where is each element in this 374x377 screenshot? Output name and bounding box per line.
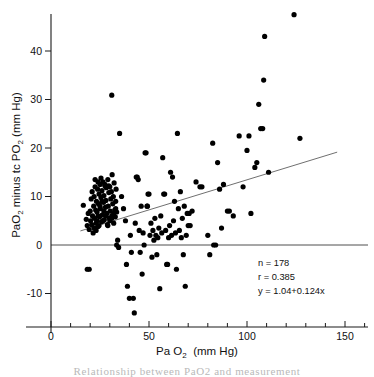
sample-size: n = 178 — [258, 258, 289, 268]
data-point — [97, 204, 102, 209]
data-point — [105, 223, 110, 228]
data-point — [142, 242, 147, 247]
data-point — [184, 233, 189, 238]
data-point — [106, 204, 111, 209]
data-point — [174, 267, 179, 272]
data-point — [128, 233, 133, 238]
data-point — [156, 225, 161, 230]
data-point — [138, 250, 143, 255]
data-point — [176, 206, 181, 211]
y-tick-label: 0 — [36, 239, 42, 251]
data-point — [95, 213, 100, 218]
statistics-annotation: n = 178r = 0.385y = 1.04+0.124x — [258, 258, 325, 296]
y-tick-labels: -10010203040 — [27, 45, 42, 299]
data-point — [150, 228, 155, 233]
data-point — [121, 206, 126, 211]
y-axis — [45, 14, 51, 333]
data-point — [109, 216, 114, 221]
data-point — [256, 102, 261, 107]
data-point — [145, 204, 150, 209]
y-tick-label: -10 — [27, 287, 42, 299]
data-point — [147, 233, 152, 238]
data-point — [181, 252, 186, 257]
data-point — [101, 208, 106, 213]
data-point — [99, 188, 104, 193]
data-point — [205, 233, 210, 238]
data-point — [100, 218, 105, 223]
data-point — [219, 225, 224, 230]
data-point — [171, 218, 176, 223]
data-point — [188, 223, 193, 228]
data-point — [116, 245, 121, 250]
data-point — [98, 175, 103, 180]
data-point — [179, 235, 184, 240]
data-point — [291, 12, 296, 17]
x-tick-label: 100 — [238, 330, 256, 342]
data-point — [162, 191, 167, 196]
data-point — [246, 133, 251, 138]
data-point — [152, 216, 157, 221]
data-point — [110, 172, 115, 177]
data-point — [113, 187, 118, 192]
data-point — [131, 296, 136, 301]
data-point — [92, 194, 97, 199]
data-point — [133, 221, 138, 226]
data-point — [160, 155, 165, 160]
data-point — [182, 204, 187, 209]
data-point — [260, 126, 265, 131]
data-point — [123, 218, 128, 223]
data-point — [109, 189, 114, 194]
data-point — [244, 148, 249, 153]
x-axis-title: Pa O2 (mm Hg) — [156, 345, 238, 360]
data-point — [237, 133, 242, 138]
data-point — [117, 131, 122, 136]
data-point — [240, 184, 245, 189]
data-point — [157, 286, 162, 291]
y-tick-label: 30 — [30, 93, 42, 105]
data-point — [141, 230, 146, 235]
svg-text:Pa O2 (mm Hg): Pa O2 (mm Hg) — [156, 345, 238, 360]
data-point — [180, 216, 185, 221]
data-point — [231, 213, 236, 218]
x-tick-label: 0 — [48, 330, 54, 342]
data-point — [199, 184, 204, 189]
data-point — [90, 189, 95, 194]
data-point — [215, 160, 220, 165]
data-point — [113, 199, 118, 204]
regression-line — [80, 152, 337, 231]
svg-text:PaO2 minus tc PO2 (mm Hg): PaO2 minus tc PO2 (mm Hg) — [10, 92, 25, 238]
data-point — [109, 93, 114, 98]
data-point — [112, 180, 117, 185]
data-point — [149, 255, 154, 260]
data-point — [190, 208, 195, 213]
data-point — [96, 223, 101, 228]
data-point — [163, 228, 168, 233]
data-point — [99, 199, 104, 204]
data-point — [221, 182, 226, 187]
data-point — [154, 252, 159, 257]
data-point — [103, 213, 108, 218]
data-point — [217, 187, 222, 192]
data-point — [266, 170, 271, 175]
data-point — [172, 199, 177, 204]
x-tick-label: 150 — [336, 330, 354, 342]
data-point — [168, 170, 173, 175]
y-tick-label: 20 — [30, 142, 42, 154]
data-point — [213, 242, 218, 247]
data-point — [101, 193, 106, 198]
data-point — [248, 211, 253, 216]
data-point — [262, 34, 267, 39]
data-point — [158, 213, 163, 218]
data-point — [94, 218, 99, 223]
data-point — [207, 252, 212, 257]
data-point — [81, 203, 86, 208]
x-tick-label: 50 — [143, 330, 155, 342]
y-tick-label: 40 — [30, 45, 42, 57]
x-axis — [26, 321, 368, 327]
data-point — [177, 228, 182, 233]
data-point — [105, 177, 110, 182]
correlation: r = 0.385 — [258, 272, 295, 282]
data-point — [113, 206, 118, 211]
figure-caption: Relationship between PaO2 and measuremen… — [0, 365, 374, 377]
data-point — [119, 194, 124, 199]
